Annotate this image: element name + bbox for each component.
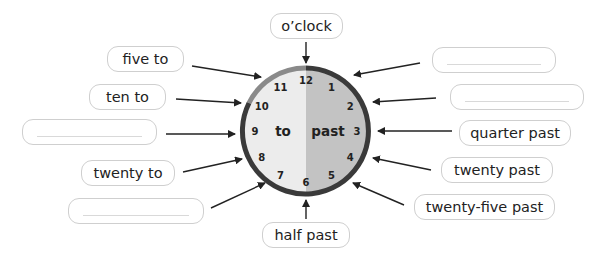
clock-number-3: 3 bbox=[354, 126, 361, 137]
arrow-ten-to bbox=[176, 99, 241, 103]
clock-number-4: 4 bbox=[347, 152, 354, 163]
label-oclock: o’clock bbox=[270, 13, 343, 39]
arrow-twenty-five-to bbox=[211, 183, 265, 208]
arrow-twenty-past bbox=[373, 158, 431, 170]
arrow-ten-past bbox=[373, 98, 436, 102]
clock-number-6: 6 bbox=[303, 177, 310, 188]
label-twenty-five-past: twenty-five past bbox=[414, 194, 555, 220]
label-ten-to: ten to bbox=[89, 84, 166, 110]
label-twenty-past: twenty past bbox=[441, 157, 553, 183]
label-half-past: half past bbox=[262, 222, 350, 248]
clock-number-7: 7 bbox=[277, 170, 284, 181]
clock-number-11: 11 bbox=[274, 82, 288, 93]
answer-box-quarter-to[interactable] bbox=[22, 119, 157, 145]
clock-number-8: 8 bbox=[258, 152, 265, 163]
answer-box-five-past[interactable] bbox=[432, 47, 556, 73]
clock-face: 121234567891011 to past bbox=[242, 68, 369, 194]
label-twenty-to: twenty to bbox=[81, 160, 175, 186]
arrow-twenty-five-past bbox=[353, 183, 404, 205]
answer-box-twenty-five-to[interactable] bbox=[68, 198, 204, 224]
clock-number-1: 1 bbox=[328, 82, 335, 93]
clock-number-12: 12 bbox=[299, 75, 313, 86]
to-label: to bbox=[275, 123, 291, 139]
clock-number-10: 10 bbox=[255, 101, 269, 112]
clock-number-5: 5 bbox=[328, 170, 335, 181]
answer-box-ten-past[interactable] bbox=[450, 84, 584, 110]
label-five-to: five to bbox=[107, 46, 184, 72]
arrow-five-to bbox=[192, 66, 261, 77]
past-label: past bbox=[311, 123, 345, 139]
label-quarter-past: quarter past bbox=[459, 120, 571, 146]
arrow-twenty-to bbox=[183, 159, 242, 172]
clock-number-2: 2 bbox=[347, 101, 354, 112]
arrow-five-past bbox=[354, 63, 420, 75]
clock-number-9: 9 bbox=[252, 126, 259, 137]
